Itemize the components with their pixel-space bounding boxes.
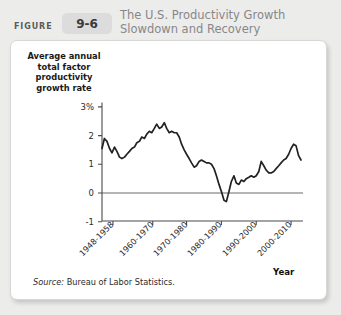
source-prefix: Source: <box>33 277 64 287</box>
figure-title-line-1: The U.S. Productivity Growth <box>120 9 335 23</box>
y-tick-label: 2 <box>68 131 94 141</box>
y-tick-label: 1 <box>68 159 94 169</box>
figure-title: The U.S. Productivity Growth Slowdown an… <box>120 9 335 36</box>
figure-number: 9-6 <box>62 17 112 31</box>
source-note: Source: Bureau of Labor Statistics. <box>33 277 175 287</box>
data-line <box>102 123 301 202</box>
figure-label: FIGURE <box>14 22 53 31</box>
y-tick-label: 3% <box>68 102 94 112</box>
y-tick-label: 0 <box>68 188 94 198</box>
figure-title-line-2: Slowdown and Recovery <box>120 23 335 37</box>
x-axis-title: Year <box>273 267 294 277</box>
chart-card: Average annual total factor productivity… <box>10 40 327 300</box>
figure-header: FIGURE 9-6 The U.S. Productivity Growth … <box>0 4 341 40</box>
line-chart-plot <box>11 41 326 299</box>
y-tick-label: -1 <box>68 217 94 227</box>
source-text: Bureau of Labor Statistics. <box>64 277 175 287</box>
figure-number-badge: 9-6 <box>62 13 112 34</box>
